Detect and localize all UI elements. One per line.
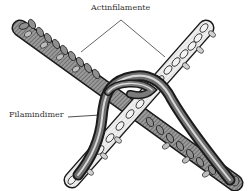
filamin-actin-diagram: Actinfilamente Filamindimer xyxy=(0,0,249,191)
filamin-dimer-label: Filamindimer xyxy=(9,111,64,119)
actin-leader-lines xyxy=(81,20,165,57)
diagram-canvas xyxy=(0,0,249,191)
actin-filaments-label: Actinfilamente xyxy=(91,4,150,12)
filamin-leader-line xyxy=(68,115,100,117)
actin-filament-left xyxy=(18,18,239,186)
